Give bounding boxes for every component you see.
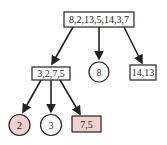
edge-root-to-right bbox=[124, 27, 142, 63]
node-right: 14,13 bbox=[130, 65, 156, 80]
node-left-right-label: 7,5 bbox=[80, 119, 93, 130]
tree-diagram: 8,2,13,5,14,3,7 3,2,7,5 8 14,13 2 3 7,5 bbox=[0, 0, 167, 145]
node-middle-label: 8 bbox=[97, 67, 102, 78]
node-right-label: 14,13 bbox=[132, 67, 155, 78]
node-left-middle: 3 bbox=[41, 115, 62, 136]
edge-left-to-left-left bbox=[23, 80, 41, 112]
edge-left-to-left-right bbox=[60, 80, 80, 114]
node-left: 3,2,7,5 bbox=[32, 67, 70, 80]
node-middle: 8 bbox=[89, 62, 109, 82]
edge-root-to-left bbox=[52, 27, 73, 64]
node-left-left-label: 2 bbox=[17, 120, 22, 131]
node-left-left: 2 bbox=[9, 115, 30, 136]
node-left-label: 3,2,7,5 bbox=[37, 68, 65, 79]
node-left-right: 7,5 bbox=[72, 116, 101, 132]
node-left-middle-label: 3 bbox=[49, 120, 54, 131]
node-root: 8,2,13,5,14,3,7 bbox=[64, 12, 134, 27]
node-root-label: 8,2,13,5,14,3,7 bbox=[69, 14, 129, 25]
